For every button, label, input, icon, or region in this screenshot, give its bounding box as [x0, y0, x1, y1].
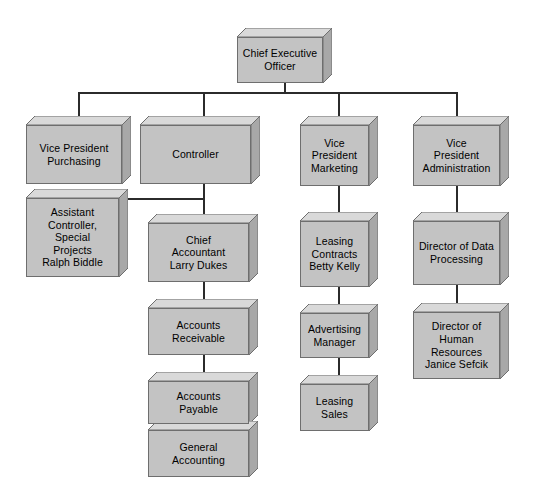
node-face: Vice President Marketing: [300, 125, 369, 186]
node-label: Accounts Receivable: [169, 319, 228, 344]
node-vice-president-purchasing[interactable]: Vice President Purchasing: [26, 116, 131, 184]
node-face: Director of Data Processing: [413, 221, 500, 285]
node-leasing-contracts[interactable]: Leasing Contracts Betty Kelly: [300, 212, 378, 287]
node-director-of-human-resources[interactable]: Director of Human Resources Janice Sefci…: [413, 303, 509, 379]
node-face: Director of Human Resources Janice Sefci…: [413, 312, 500, 379]
node-face: Chief Accountant Larry Dukes: [148, 223, 249, 282]
node-face: Leasing Contracts Betty Kelly: [300, 221, 369, 287]
node-label: Controller: [169, 148, 222, 161]
connector-advertising-manager-to-leasing-sales: [338, 358, 340, 375]
connector-bus-to-vp-marketing: [338, 92, 340, 116]
node-director-of-data-processing[interactable]: Director of Data Processing: [413, 212, 509, 285]
connector-vp-administration-to-director-data-processing: [456, 186, 458, 212]
node-advertising-manager[interactable]: Advertising Manager: [300, 304, 378, 358]
node-face: General Accounting: [148, 430, 249, 477]
node-accounts-receivable[interactable]: Accounts Receivable: [148, 299, 258, 355]
connector-accounts-receivable-to-accounts-payable: [203, 355, 205, 372]
node-label: Leasing Sales: [313, 395, 356, 420]
connector-controller-to-assistant-controller: [128, 198, 205, 200]
node-label: Chief Accountant Larry Dukes: [167, 234, 231, 272]
connector-director-dp-to-director-hr: [456, 285, 458, 303]
connector-leasing-contracts-to-advertising-manager: [338, 287, 340, 304]
node-face: Vice President Purchasing: [26, 125, 122, 184]
node-face: Chief Executive Officer: [237, 37, 323, 83]
node-leasing-sales[interactable]: Leasing Sales: [300, 375, 378, 431]
node-label: Vice President Administration: [420, 137, 494, 175]
node-face: Leasing Sales: [300, 384, 369, 431]
node-face: Advertising Manager: [300, 313, 369, 358]
node-label: General Accounting: [169, 441, 228, 466]
connector-bus-to-controller: [203, 92, 205, 116]
node-face: Vice President Administration: [413, 125, 500, 186]
connector-level1-bus: [78, 92, 457, 94]
node-face: Accounts Receivable: [148, 308, 249, 355]
node-chief-accountant[interactable]: Chief Accountant Larry Dukes: [148, 214, 258, 282]
node-face: Accounts Payable: [148, 381, 249, 424]
node-face: Assistant Controller, Special Projects R…: [26, 198, 119, 277]
node-label: Leasing Contracts Betty Kelly: [306, 235, 363, 273]
node-accounts-payable[interactable]: Accounts Payable: [148, 372, 258, 424]
node-label: Assistant Controller, Special Projects R…: [39, 206, 106, 269]
org-chart-canvas: Chief Executive Officer Vice President P…: [0, 0, 535, 497]
node-label: Vice President Marketing: [308, 137, 361, 175]
node-general-accounting[interactable]: General Accounting: [148, 421, 258, 477]
connector-bus-to-vp-purchasing: [78, 92, 80, 116]
connector-vp-marketing-to-leasing-contracts: [338, 186, 340, 212]
node-label: Advertising Manager: [305, 323, 364, 348]
node-vice-president-marketing[interactable]: Vice President Marketing: [300, 116, 378, 186]
node-face: Controller: [140, 125, 251, 184]
node-label: Director of Data Processing: [416, 240, 497, 265]
node-label: Vice President Purchasing: [37, 142, 112, 167]
node-label: Director of Human Resources Janice Sefci…: [422, 320, 491, 370]
node-chief-executive-officer[interactable]: Chief Executive Officer: [237, 28, 332, 83]
connector-chief-accountant-to-accounts-receivable: [203, 282, 205, 299]
connector-bus-to-vp-administration: [456, 92, 458, 116]
node-vice-president-administration[interactable]: Vice President Administration: [413, 116, 509, 186]
node-label: Accounts Payable: [174, 390, 224, 415]
node-assistant-controller-special-projects[interactable]: Assistant Controller, Special Projects R…: [26, 189, 128, 277]
node-controller[interactable]: Controller: [140, 116, 260, 184]
node-label: Chief Executive Officer: [240, 47, 320, 72]
